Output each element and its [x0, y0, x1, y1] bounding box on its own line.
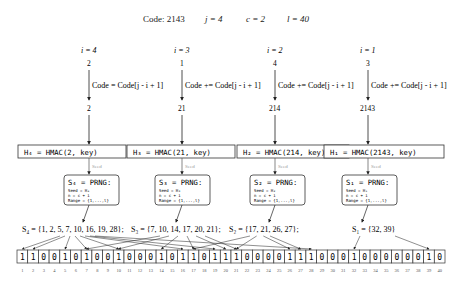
operation-label: Code += Code[j - i + 1] [185, 81, 261, 90]
code-value: 214 [269, 104, 281, 113]
bit-value: 0 [266, 253, 271, 262]
i-label: i = 4 [81, 46, 97, 55]
bit-cell: 132 [349, 250, 360, 273]
bit-cell: 120 [220, 250, 231, 273]
bit-index: 6 [75, 268, 78, 273]
bit-index: 12 [138, 268, 143, 273]
code-value: 2 [87, 104, 91, 113]
i-label: i = 3 [174, 46, 190, 55]
operation-label: Code += Code[j - i + 1] [371, 81, 447, 90]
code-digit: 3 [366, 59, 370, 68]
bit-cell: 117 [188, 250, 199, 273]
bit-index: 11 [127, 268, 131, 273]
bit-index: 21 [234, 268, 239, 273]
bit-cell: 128 [306, 250, 317, 273]
bit-index: 23 [256, 268, 261, 273]
bit-index: 32 [352, 268, 357, 273]
prng-output-arrow [176, 205, 182, 222]
operation-label: Code = Code[j - i + 1] [92, 81, 164, 90]
bit-cell: 040 [434, 250, 445, 273]
bit-index: 9 [107, 268, 110, 273]
bit-value: 0 [41, 253, 46, 262]
bit-embedding-diagram: Code: 2143 j = 4 c = 2 l = 40 i = 42Code… [0, 0, 475, 289]
bit-index: 10 [116, 268, 121, 273]
bit-index: 2 [32, 268, 34, 273]
bit-index: 39 [427, 268, 432, 273]
bit-index: 20 [223, 268, 228, 273]
bit-value: 0 [384, 253, 389, 262]
bit-index: 37 [405, 268, 410, 273]
hmac-label: H₃ = HMAC(21, key) [133, 148, 211, 157]
set-bit-arrow [236, 236, 256, 249]
bit-value: 0 [362, 253, 367, 262]
bit-value: 1 [309, 253, 314, 262]
stage-2: i = 24Code += Code[j - i + 1]214H₂ = HMA… [229, 46, 354, 234]
bit-index: 15 [170, 268, 175, 273]
bit-cell: 06 [71, 250, 82, 273]
prng-param: Range = {1,...,l} [159, 198, 200, 203]
set-bit-arrow [187, 236, 194, 249]
set-bit-arrow [65, 236, 70, 249]
bit-cell: 036 [392, 250, 403, 273]
seed-label: Seed [92, 164, 102, 169]
bit-value: 1 [20, 253, 25, 262]
bit-value: 1 [352, 253, 357, 262]
bit-index: 17 [191, 268, 196, 273]
bit-index: 19 [213, 268, 218, 273]
bit-value: 0 [255, 253, 260, 262]
bit-value: 0 [277, 253, 282, 262]
set-bit-arrow [395, 236, 429, 249]
set-bit-arrow [22, 236, 60, 249]
bit-cell: 114 [156, 250, 167, 273]
bit-cell: 018 [199, 250, 210, 273]
code-value: 2143 [360, 104, 375, 113]
bit-index: 8 [96, 268, 99, 273]
bit-index: 33 [363, 268, 368, 273]
bit-index: 30 [330, 268, 335, 273]
bit-cell: 012 [135, 250, 146, 273]
bit-value: 1 [427, 253, 432, 262]
bit-index: 38 [416, 268, 421, 273]
bit-value: 0 [106, 253, 111, 262]
i-label: i = 1 [360, 46, 376, 55]
bit-index: 40 [437, 268, 442, 273]
bit-value: 1 [84, 253, 89, 262]
bit-value: 0 [341, 253, 346, 262]
hmac-label: H₂ = HMAC(214, key) [243, 148, 325, 157]
bit-value: 0 [148, 253, 153, 262]
bit-index: 34 [373, 268, 378, 273]
bit-index: 16 [181, 268, 186, 273]
bit-index: 13 [149, 268, 154, 273]
prng-output-arrow [269, 205, 275, 222]
set-bit-arrow [33, 236, 65, 249]
bit-value: 1 [31, 253, 36, 262]
bit-cell: 09 [103, 250, 114, 273]
bit-cell: 126 [285, 250, 296, 273]
bit-value: 0 [138, 253, 143, 262]
bit-value: 1 [180, 253, 185, 262]
code-digit: 2 [87, 59, 91, 68]
bit-cell: 119 [210, 250, 221, 273]
bit-value: 1 [116, 253, 121, 262]
bit-value: 1 [223, 253, 228, 262]
stage-4: i = 42Code = Code[j - i + 1]2H₄ = HMAC(2… [18, 46, 164, 234]
prng-title: S₁ = PRNG: [346, 178, 389, 187]
bit-cell: 15 [60, 250, 71, 273]
bit-cell: 03 [38, 250, 49, 273]
bit-index: 35 [384, 268, 389, 273]
bit-value: 0 [394, 253, 399, 262]
c-label: c = 2 [246, 14, 266, 24]
i-label: i = 2 [267, 46, 283, 55]
code-label: Code: 2143 [143, 14, 185, 24]
set-label: S₂ = {17, 21, 26, 27}; [229, 225, 299, 234]
header: Code: 2143 j = 4 c = 2 l = 40 [143, 14, 310, 24]
code-digit: 1 [180, 59, 184, 68]
bit-cell: 031 [338, 250, 349, 273]
bit-index: 22 [245, 268, 250, 273]
bit-cell: 030 [327, 250, 338, 273]
set-label: S₄ = {1, 2, 5, 7, 10, 16, 19, 28}; [22, 225, 124, 234]
bit-value: 1 [234, 253, 239, 262]
prng-output-arrow [362, 205, 368, 222]
bit-cell: 022 [242, 250, 253, 273]
code-value: 21 [178, 104, 186, 113]
